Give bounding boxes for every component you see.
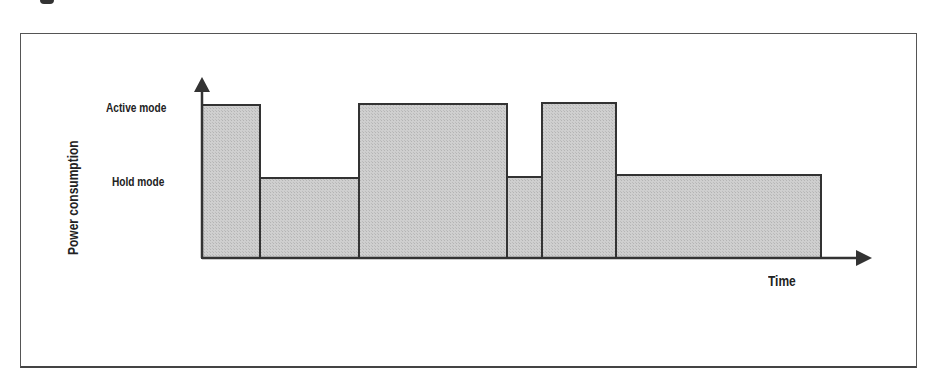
level-label-active: Active mode bbox=[106, 100, 166, 115]
y-axis-arrow-icon bbox=[194, 77, 210, 92]
x-axis-label: Time bbox=[768, 272, 796, 289]
segment-hold-1 bbox=[260, 178, 359, 258]
segment-active-3 bbox=[542, 103, 616, 258]
segment-active-1 bbox=[202, 105, 260, 258]
level-label-hold: Hold mode bbox=[112, 174, 164, 189]
x-axis-arrow-icon bbox=[856, 250, 872, 266]
segment-hold-3 bbox=[616, 175, 821, 258]
segment-hold-2 bbox=[507, 177, 542, 258]
y-axis-label: Power consumption bbox=[64, 140, 81, 255]
segment-active-2 bbox=[359, 104, 507, 258]
